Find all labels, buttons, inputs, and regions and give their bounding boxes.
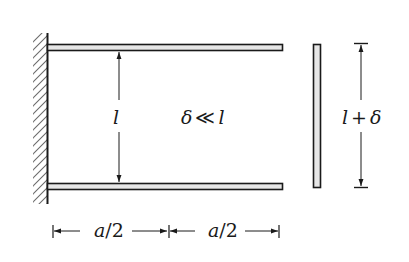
gap-label: l — [113, 108, 119, 127]
dim-label-right: a/2 — [208, 221, 238, 240]
relation-symbol: ≪ — [195, 106, 215, 128]
cantilever-diagram — [0, 0, 409, 262]
relation-l: l — [218, 106, 224, 128]
dim-label-left: a/2 — [94, 221, 124, 240]
vertical-plate — [314, 45, 321, 188]
plate-length-label: l+δ — [342, 108, 381, 127]
plate-length-plus: + — [351, 106, 367, 128]
dim-left-a: a — [94, 219, 105, 241]
relation-delta: δ — [181, 106, 192, 128]
top-beam — [48, 45, 283, 51]
plate-length-delta: δ — [370, 106, 381, 128]
fixed-wall — [30, 25, 50, 221]
bottom-beam — [48, 184, 283, 190]
length-dimensions — [53, 225, 279, 238]
relation-label: δ≪l — [181, 108, 225, 127]
dim-left-rest: /2 — [105, 219, 124, 241]
dim-right-a: a — [208, 219, 219, 241]
dim-right-rest: /2 — [219, 219, 238, 241]
plate-length-l: l — [342, 106, 348, 128]
